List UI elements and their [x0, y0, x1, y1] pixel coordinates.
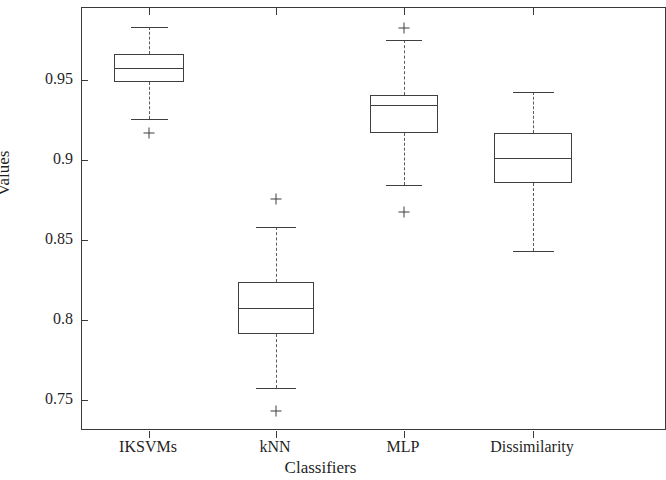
- plot-frame: [81, 7, 666, 430]
- y-axis-tick-label: 0.95: [3, 71, 73, 87]
- y-axis-tick: [81, 80, 88, 81]
- whisker-upper: [533, 92, 534, 133]
- x-axis-tick-top: [276, 8, 277, 15]
- x-axis-tick: [276, 431, 277, 438]
- boxplot-dissimilarity: [82, 8, 665, 429]
- x-axis-tick-top: [404, 8, 405, 15]
- x-axis-tick-label-iksvms: IKSVMs: [119, 438, 177, 456]
- y-axis-tick-label: 0.85: [3, 231, 73, 247]
- y-axis-tick-label: 0.75: [3, 391, 73, 407]
- x-axis-tick: [404, 431, 405, 438]
- median-line: [494, 158, 572, 159]
- cap-lower: [513, 251, 554, 252]
- x-axis-tick-label-knn: kNN: [259, 438, 290, 456]
- y-axis-tick: [81, 400, 88, 401]
- y-axis-tick-label: 0.8: [3, 311, 73, 327]
- y-axis-tick: [81, 320, 88, 321]
- x-axis-tick: [149, 431, 150, 438]
- x-axis-tick-label-mlp: MLP: [387, 438, 420, 456]
- cap-upper: [513, 92, 554, 93]
- y-axis-title: Values: [0, 151, 14, 196]
- x-axis-title: Classifiers: [0, 458, 641, 478]
- plot-area: [82, 8, 665, 429]
- x-axis-tick-top: [533, 8, 534, 15]
- x-axis-tick: [533, 431, 534, 438]
- y-axis-tick: [81, 160, 88, 161]
- x-axis-tick-top: [149, 8, 150, 15]
- x-axis-tick-label-dissimilarity: Dissimilarity: [490, 438, 574, 456]
- y-axis-tick: [81, 240, 88, 241]
- whisker-lower: [533, 183, 534, 251]
